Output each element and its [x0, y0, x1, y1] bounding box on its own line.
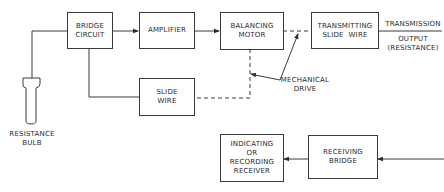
- transmitting-slide-wire-label-2: SLIDE WIRE: [322, 31, 367, 40]
- balancing-motor-label-2: MOTOR: [238, 31, 265, 40]
- indicating-receiver-label-2: OR: [247, 149, 258, 158]
- mechanical-drive-label: MECHANICAL DRIVE: [279, 76, 331, 94]
- receiving-bridge-label-2: BRIDGE: [329, 157, 357, 166]
- slide-wire-block: SLIDE WIRE: [139, 78, 195, 116]
- transmission-output-label-top: TRANSMISSION: [383, 20, 443, 29]
- balancing-motor-label-1: BALANCING: [230, 22, 273, 31]
- bridge-circuit-block: BRIDGE CIRCUIT: [67, 12, 113, 49]
- dashed-motor-to-slidewire: [194, 49, 250, 98]
- line-bridge-to-slidewire: [89, 48, 139, 97]
- amplifier-label: AMPLIFIER: [148, 26, 186, 35]
- transmission-output-label-1: TRANSMISSION: [383, 20, 443, 29]
- resistance-bulb-label-1: RESISTANCE: [6, 130, 58, 139]
- indicating-receiver-label-4: RECEIVER: [234, 167, 270, 176]
- bulb-lead-wire: [32, 31, 67, 78]
- slide-wire-label-2: WIRE: [157, 97, 176, 106]
- mechanical-drive-label-2: DRIVE: [279, 85, 331, 94]
- transmitting-slide-wire-label-1: TRANSMITTING: [318, 22, 373, 31]
- slide-wire-label-1: SLIDE: [156, 88, 177, 97]
- transmission-output-label-2: OUTPUT: [383, 35, 443, 44]
- indicating-receiver-block: INDICATING OR RECORDING RECEIVER: [220, 134, 284, 182]
- receiving-bridge-block: RECEIVING BRIDGE: [308, 135, 378, 179]
- mechanical-drive-label-1: MECHANICAL: [279, 76, 331, 85]
- indicating-receiver-label-1: INDICATING: [231, 140, 274, 149]
- resistance-bulb-label: RESISTANCE BULB: [6, 130, 58, 148]
- resistance-bulb-label-2: BULB: [6, 139, 58, 148]
- amplifier-block: AMPLIFIER: [139, 12, 195, 49]
- balancing-motor-block: BALANCING MOTOR: [220, 12, 284, 50]
- bridge-circuit-label-2: CIRCUIT: [75, 31, 104, 40]
- resistance-bulb-icon: [23, 78, 40, 124]
- transmission-output-label-bottom: OUTPUT (RESISTANCE): [383, 35, 443, 53]
- indicating-receiver-label-3: RECORDING: [230, 158, 274, 167]
- leader-mechanical-drive-lower: [251, 74, 280, 80]
- transmission-output-label-3: (RESISTANCE): [383, 44, 443, 53]
- receiving-bridge-label-1: RECEIVING: [323, 148, 363, 157]
- diagram-canvas: BRIDGE CIRCUIT AMPLIFIER BALANCING MOTOR…: [0, 0, 444, 192]
- transmitting-slide-wire-block: TRANSMITTING SLIDE WIRE: [311, 12, 379, 49]
- bridge-circuit-label-1: BRIDGE: [76, 22, 104, 31]
